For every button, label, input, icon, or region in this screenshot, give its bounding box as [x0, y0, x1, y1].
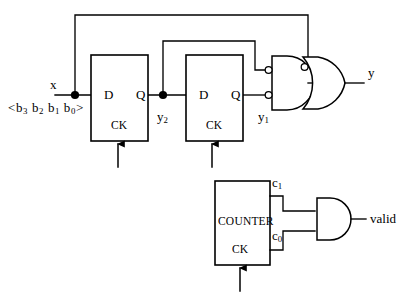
signal-label-c0: c0 — [272, 229, 282, 244]
ff2-ck-label: CK — [206, 120, 222, 132]
and-gate-valid — [317, 198, 351, 240]
ff1-d-label: D — [104, 88, 113, 101]
counter-ck-label: CK — [232, 244, 248, 256]
signal-label-y2: y2 — [157, 110, 168, 125]
signal-label-c1: c1 — [272, 176, 282, 191]
junction-dot-x — [71, 91, 79, 99]
signal-label-y1: y1 — [258, 110, 269, 125]
ff2-d-label: D — [199, 88, 208, 101]
input-label-x: x — [50, 78, 57, 91]
output-label-valid: valid — [370, 212, 396, 225]
ff1-ck-label: CK — [111, 120, 127, 132]
and-gate-y-bubble-top — [265, 67, 272, 74]
or-gate-y-bubble-top — [301, 64, 308, 71]
counter-label: COUNTER — [218, 216, 274, 228]
circuit-schematic — [0, 0, 406, 296]
schematic-canvas: x <b3 b2 b1 b0> D Q CK D Q CK y2 y1 y CO… — [0, 0, 406, 296]
output-label-y: y — [368, 66, 375, 79]
ff1-q-label: Q — [136, 88, 145, 101]
input-bus-label: <b3 b2 b1 b0> — [8, 101, 84, 116]
junction-dot-y2 — [159, 91, 167, 99]
ff2-q-label: Q — [231, 88, 240, 101]
wire-c1-to-and-valid — [270, 196, 315, 211]
and-gate-y-bubble-bottom — [265, 92, 272, 99]
